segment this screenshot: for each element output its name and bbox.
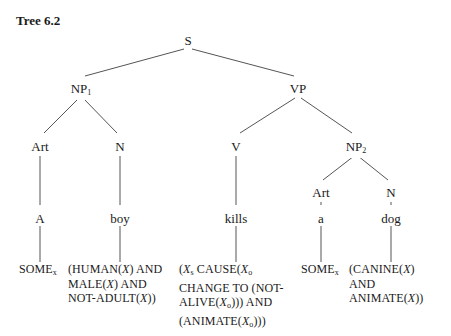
- word-a: A: [34, 212, 45, 226]
- edge-s-vp: [192, 49, 294, 76]
- node-label: S: [184, 33, 191, 48]
- formula-line: (Xs CAUSE(Xo: [179, 262, 284, 281]
- node-label: N: [386, 185, 395, 200]
- node-n2: N: [385, 186, 396, 200]
- formula-line: (HUMAN(X) AND: [68, 262, 162, 277]
- word-kills: kills: [224, 212, 248, 226]
- formula-line: NOT-ADULT(X)): [68, 291, 162, 306]
- node-art2: Art: [311, 186, 330, 200]
- edge-vp-np2: [301, 98, 352, 133]
- node-vp: VP: [289, 82, 308, 96]
- edge-np1-art: [44, 98, 79, 133]
- formula-some-2: SOMEx: [301, 262, 339, 281]
- formula-line: CHANGE TO (NOT-: [179, 281, 284, 296]
- formula-line: (CANINE(X): [349, 262, 423, 277]
- edge-np2-art: [323, 156, 354, 180]
- node-label: VP: [290, 81, 307, 96]
- node-art1: Art: [30, 140, 49, 154]
- node-subscript: 1: [87, 88, 91, 97]
- node-s: S: [183, 34, 192, 48]
- node-n1: N: [114, 140, 125, 154]
- edge-np1-n: [83, 98, 117, 133]
- node-label: N: [115, 139, 124, 154]
- formula-line: ANIMATE(X)): [349, 291, 423, 306]
- node-label: V: [231, 139, 240, 154]
- node-np2: NP2: [345, 140, 368, 158]
- node-label: NP: [346, 139, 363, 154]
- node-label: Art: [312, 185, 329, 200]
- formula-line: (ANIMATE(Xo))): [179, 314, 284, 333]
- edge-vp-v: [240, 98, 295, 133]
- formula-text: SOME: [301, 262, 335, 276]
- word-dog: dog: [380, 212, 402, 226]
- word-boy: boy: [109, 212, 131, 226]
- formula-line: MALE(X) AND: [68, 277, 162, 292]
- node-label: NP: [71, 81, 88, 96]
- formula-subscript: x: [335, 268, 339, 277]
- formula-line: ALIVE(Xo))) AND: [179, 295, 284, 314]
- formula-text: SOME: [19, 262, 53, 276]
- formula-boy: (HUMAN(X) AND MALE(X) AND NOT-ADULT(X)): [68, 262, 162, 306]
- edge-s-np1: [85, 49, 184, 76]
- node-subscript: 2: [362, 146, 366, 155]
- word-a-2: a: [317, 212, 325, 226]
- formula-subscript: x: [53, 268, 57, 277]
- node-np1: NP1: [70, 82, 93, 100]
- node-v: V: [230, 140, 241, 154]
- formula-kills: (Xs CAUSE(Xo CHANGE TO (NOT- ALIVE(Xo)))…: [179, 262, 284, 332]
- formula-some-1: SOMEx: [19, 262, 57, 281]
- formula-line: AND: [349, 277, 423, 292]
- formula-dog: (CANINE(X) AND ANIMATE(X)): [349, 262, 423, 306]
- node-label: Art: [31, 139, 48, 154]
- edge-np2-n: [358, 156, 388, 180]
